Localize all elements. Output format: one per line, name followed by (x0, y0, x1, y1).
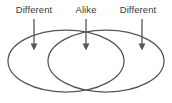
arrow-group (31, 19, 146, 51)
arrow-center (83, 19, 90, 51)
arrow-right (139, 19, 146, 51)
venn-diagram-figure: Different Alike Different (0, 0, 172, 103)
left-ellipse (8, 30, 124, 92)
venn-diagram-graphic (0, 0, 172, 103)
right-ellipse (48, 30, 164, 92)
